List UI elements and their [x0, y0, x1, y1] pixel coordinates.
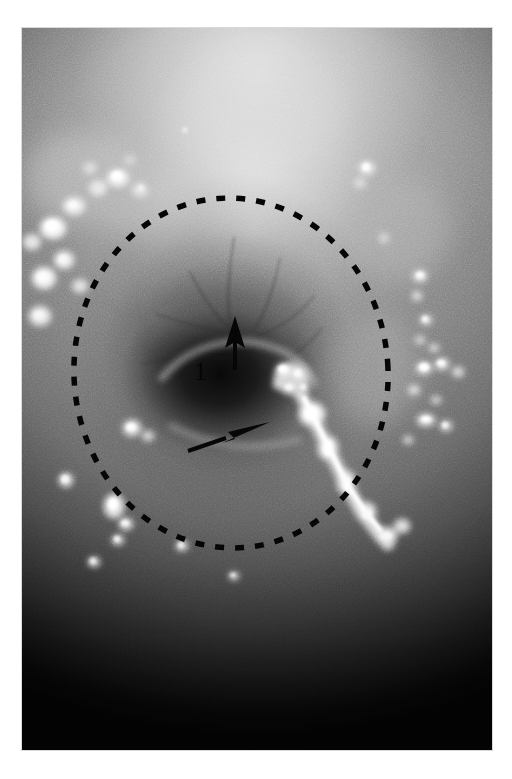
dashed-ellipse-roi[interactable]: [62, 187, 400, 558]
label-1: 1: [194, 357, 207, 386]
annotation-overlay: 1: [22, 28, 492, 750]
arrow-diagonal-marker[interactable]: [188, 422, 270, 451]
figure-root: 1: [0, 0, 512, 779]
arrow-up-marker[interactable]: [225, 316, 245, 370]
endoscopic-photograph: 1: [22, 28, 492, 750]
